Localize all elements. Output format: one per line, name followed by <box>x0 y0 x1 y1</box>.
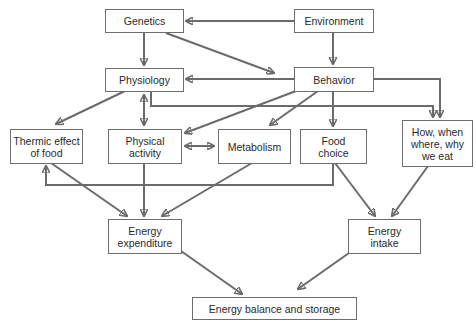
arrow-thermic-expenditure <box>51 163 127 216</box>
arrow-physiology-how-when <box>151 91 433 117</box>
node-genetics: Genetics <box>105 9 184 33</box>
node-behavior: Behavior <box>294 67 374 92</box>
arrow-physiology-thermic <box>56 91 125 124</box>
arrow-food-choice-thermic <box>46 163 333 185</box>
node-physiology: Physiology <box>105 68 184 92</box>
arrow-metabolism-expenditure <box>162 163 252 216</box>
node-metabolism: Metabolism <box>218 129 291 164</box>
arrow-intake-balance <box>298 253 349 289</box>
arrow-behavior-metabolism <box>270 91 318 125</box>
energy-balance-diagram: Genetics Environment Physiology Behavior… <box>0 0 476 326</box>
node-energy-intake: Energy intake <box>348 219 421 254</box>
node-energy-balance-and-storage: Energy balance and storage <box>192 297 357 320</box>
arrow-food-choice-intake <box>335 163 375 216</box>
arrow-expenditure-balance <box>181 251 242 294</box>
arrow-genetics-behavior <box>166 33 274 73</box>
node-food-choice: Food choice <box>300 129 367 164</box>
node-physical-activity: Physical activity <box>108 129 182 164</box>
arrow-behavior-physical-activity <box>185 91 296 133</box>
node-environment: Environment <box>294 9 374 33</box>
arrow-how-when-intake <box>392 166 428 216</box>
node-thermic-effect-of-food: Thermic effect of food <box>10 129 83 164</box>
node-how-when-where-why: How, when where, why we eat <box>402 120 473 167</box>
arrow-behavior-how-when <box>373 79 440 117</box>
node-energy-expenditure: Energy expenditure <box>108 219 182 254</box>
